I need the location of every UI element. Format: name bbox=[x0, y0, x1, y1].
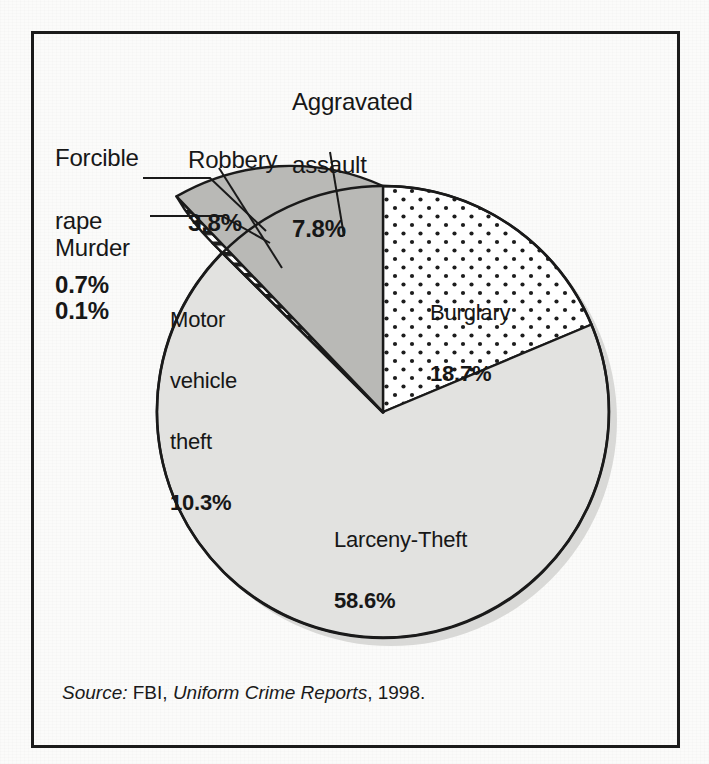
slice-label-burglary-line1: Burglary bbox=[430, 301, 510, 326]
slice-label-aggravated-assault: Aggravated assault 7.8% bbox=[292, 52, 413, 278]
slice-label-robbery: Robbery 3.8% bbox=[188, 110, 277, 273]
slice-label-burglary: Burglary 18.7% bbox=[430, 265, 510, 423]
slice-label-motor-vehicle-theft: Motor vehicle theft 10.3% bbox=[170, 272, 237, 552]
slice-value-robbery: 3.8% bbox=[188, 209, 277, 236]
slice-label-motor-vehicle-theft-line2: vehicle bbox=[170, 369, 237, 394]
slice-label-larceny-theft-line1: Larceny-Theft bbox=[334, 528, 467, 553]
source-publication: Uniform Crime Reports bbox=[173, 682, 367, 703]
slice-label-robbery-line1: Robbery bbox=[188, 146, 277, 173]
slice-label-murder: Murder 0.1% bbox=[55, 198, 130, 361]
source-note: Source: FBI, Uniform Crime Reports, 1998… bbox=[62, 682, 425, 704]
source-agency: FBI, bbox=[127, 682, 172, 703]
slice-label-forcible-rape-line1: Forcible bbox=[55, 144, 139, 171]
slice-label-murder-line1: Murder bbox=[55, 234, 130, 261]
slice-label-motor-vehicle-theft-line3: theft bbox=[170, 430, 237, 455]
source-year: , 1998. bbox=[367, 682, 425, 703]
figure-page: Forcible rape 0.7% Murder 0.1% Robbery 3… bbox=[0, 0, 709, 764]
slice-label-aggravated-assault-line1: Aggravated bbox=[292, 88, 413, 115]
slice-value-aggravated-assault: 7.8% bbox=[292, 215, 413, 242]
slice-value-burglary: 18.7% bbox=[430, 362, 510, 387]
slice-value-murder: 0.1% bbox=[55, 297, 130, 324]
slice-value-larceny-theft: 58.6% bbox=[334, 589, 467, 614]
slice-label-motor-vehicle-theft-line1: Motor bbox=[170, 308, 237, 333]
slice-label-larceny-theft: Larceny-Theft 58.6% bbox=[334, 492, 467, 650]
source-prefix: Source: bbox=[62, 682, 127, 703]
slice-label-aggravated-assault-line2: assault bbox=[292, 151, 413, 178]
slice-value-motor-vehicle-theft: 10.3% bbox=[170, 491, 237, 516]
